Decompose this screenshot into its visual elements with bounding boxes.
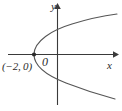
x-axis [8,51,119,58]
y-axis-label: y [51,1,56,12]
x-axis-arrowhead-icon [113,51,119,58]
parabola-figure: y x 0 (−2, 0) [0,0,122,111]
vertex-point-marker [32,52,36,56]
parabola-upper-branch [34,14,117,55]
graph-canvas [0,0,122,111]
vertex-coordinate-label: (−2, 0) [2,61,32,72]
x-axis-label: x [107,60,112,71]
origin-label: 0 [42,56,48,68]
